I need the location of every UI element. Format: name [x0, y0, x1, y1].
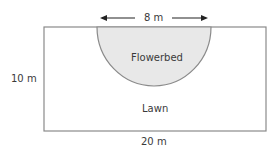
bottom-dimension-label: 20 m	[141, 136, 167, 148]
dimension-arrow-left	[100, 15, 135, 21]
left-dimension-label: 10 m	[11, 73, 37, 85]
diagram-canvas	[0, 0, 275, 154]
top-dimension-label: 8 m	[144, 12, 163, 24]
flowerbed-label: Flowerbed	[131, 52, 183, 64]
dimension-arrow-right	[172, 15, 208, 21]
lawn-label: Lawn	[142, 103, 168, 115]
